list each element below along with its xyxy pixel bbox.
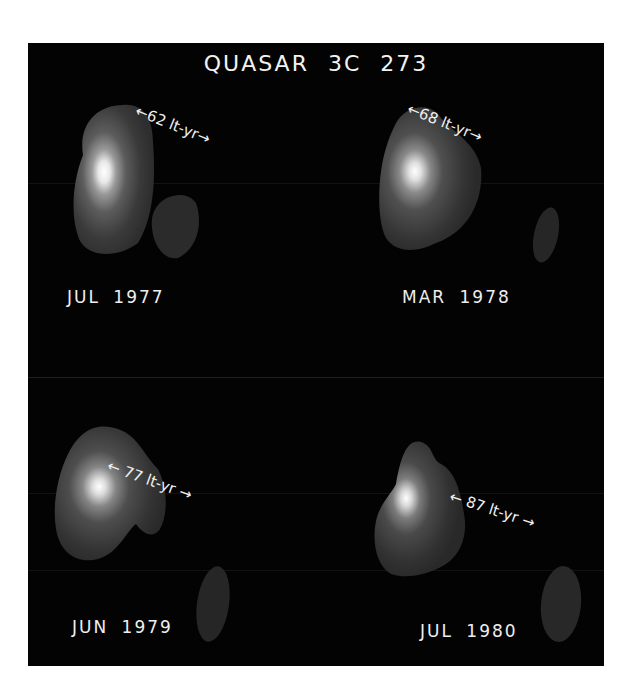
quasar-core-image — [316, 354, 604, 665]
quasar-core-image — [28, 43, 316, 354]
epoch-panel-1978: ←68 lt-yr→ MAR 1978 — [316, 43, 604, 354]
quasar-core-image — [316, 43, 604, 354]
epoch-date-label: JUL 1980 — [420, 621, 518, 641]
epoch-date-label: MAR 1978 — [402, 287, 511, 307]
epoch-panel-1977: ←62 lt-yr→ JUL 1977 — [28, 43, 316, 354]
epoch-date-label: JUN 1979 — [72, 617, 173, 637]
epoch-panel-1980: ← 87 lt-yr → JUL 1980 — [316, 354, 604, 665]
epoch-date-label: JUL 1977 — [67, 287, 165, 307]
epoch-panel-1979: ← 77 lt-yr → JUN 1979 — [28, 354, 316, 665]
figure-panel: QUASAR 3C 273 ←62 lt-yr→ JUL 1977 — [28, 43, 604, 666]
